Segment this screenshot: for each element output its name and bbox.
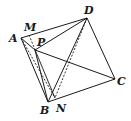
label-P: P bbox=[36, 36, 46, 49]
label-N: N bbox=[55, 102, 67, 115]
label-B: B bbox=[39, 104, 49, 117]
edge-PC bbox=[35, 50, 115, 79]
edge-BC bbox=[48, 79, 115, 102]
edge-DN bbox=[55, 18, 87, 98]
label-M: M bbox=[23, 21, 37, 34]
label-D: D bbox=[83, 4, 94, 17]
edge-BD bbox=[48, 18, 87, 102]
label-A: A bbox=[8, 32, 18, 45]
tetrahedron-diagram: A M D P C B N bbox=[0, 0, 131, 121]
label-C: C bbox=[117, 75, 126, 88]
